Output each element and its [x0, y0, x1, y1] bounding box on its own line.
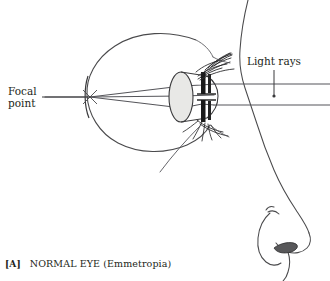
focal-point-label: Focal point — [8, 86, 37, 110]
ciliary-lower-bar — [208, 101, 211, 120]
light-rays-label: Light rays — [247, 56, 301, 68]
lens-shape — [169, 72, 193, 122]
figure-caption: [A]NORMAL EYE (Emmetropia) — [5, 258, 171, 269]
focal-point-label-line2: point — [8, 98, 37, 110]
caption-tag: [A] — [5, 259, 21, 269]
face-profile — [240, 0, 309, 233]
upper-lip-line — [283, 252, 290, 281]
nose-crease-secondary-line — [266, 207, 274, 210]
extraocular-line-b — [196, 40, 213, 57]
upper-eyelashes — [198, 53, 232, 79]
nose-wing-outline — [258, 213, 281, 265]
focal-point-label-line1: Focal — [8, 86, 37, 98]
light-ray-lower-refracted — [90, 97, 214, 108]
eye-diagram-svg — [0, 0, 330, 281]
eye-diagram-figure: Focal point Light rays [A]NORMAL EYE (Em… — [0, 0, 330, 281]
forehead-brow-nosebridge-line — [240, 0, 309, 233]
crystalline-lens — [169, 72, 193, 122]
lower-lid-cheek-line — [160, 126, 200, 172]
light-rays-leader-dot — [272, 94, 275, 97]
caption-text: NORMAL EYE (Emmetropia) — [30, 258, 171, 269]
iris-ciliary-body — [197, 72, 216, 122]
ciliary-upper-bar — [208, 74, 211, 93]
iris-lower-bar — [201, 100, 206, 122]
